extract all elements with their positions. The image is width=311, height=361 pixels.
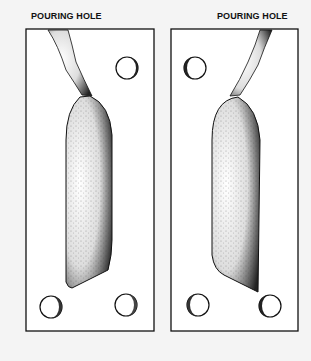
- mold-diagram: [0, 0, 311, 361]
- left-mold-half: [26, 29, 154, 331]
- right-mold-half: [171, 29, 298, 331]
